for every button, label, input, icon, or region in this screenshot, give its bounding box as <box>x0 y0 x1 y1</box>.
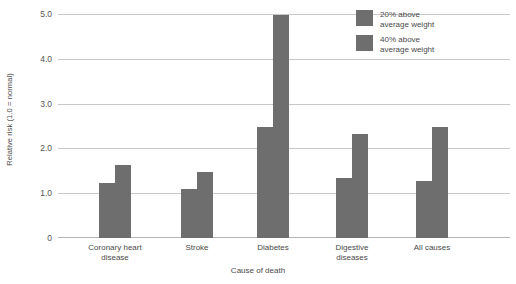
bar-0-2 <box>257 127 273 239</box>
bar-0-4 <box>416 181 432 238</box>
y-tick-label-5: 5.0 <box>20 9 52 19</box>
bar-1-1 <box>197 172 213 238</box>
bars-layer <box>58 14 510 238</box>
bar-chart: Relative risk (1.0 = normal) 5.0 4.0 3.0… <box>0 0 516 284</box>
legend-item-40-percent: 40% above average weight <box>356 35 434 54</box>
bar-0-0 <box>99 183 115 238</box>
x-axis-title: Cause of death <box>0 266 516 275</box>
legend-item-20-percent: 20% above average weight <box>356 10 434 29</box>
plot-area <box>58 14 510 238</box>
category-label-2: Diabetes <box>228 243 318 253</box>
bar-0-1 <box>181 189 197 238</box>
y-tick-label-2: 2.0 <box>20 143 52 153</box>
y-tick-label-4: 4.0 <box>20 54 52 64</box>
legend-label-40-percent: 40% above average weight <box>380 35 434 54</box>
y-tick-label-0: 0 <box>20 233 52 243</box>
bar-1-4 <box>432 127 448 238</box>
bar-0-3 <box>336 178 352 238</box>
category-label-4: All causes <box>387 243 477 253</box>
bar-1-0 <box>115 165 131 238</box>
bar-1-2 <box>273 15 289 238</box>
category-label-0: Coronary heart disease <box>70 243 160 263</box>
y-axis-title: Relative risk (1.0 = normal) <box>0 0 18 238</box>
legend-label-20-percent: 20% above average weight <box>380 10 434 29</box>
bar-1-3 <box>352 134 368 238</box>
category-label-3: Digestive diseases <box>307 243 397 263</box>
y-tick-label-1: 1.0 <box>20 188 52 198</box>
y-axis-title-text: Relative risk (1.0 = normal) <box>5 73 14 166</box>
y-tick-label-3: 3.0 <box>20 99 52 109</box>
legend-swatch-20-percent <box>356 10 373 26</box>
legend: 20% above average weight 40% above avera… <box>356 10 434 60</box>
legend-swatch-40-percent <box>356 35 373 51</box>
